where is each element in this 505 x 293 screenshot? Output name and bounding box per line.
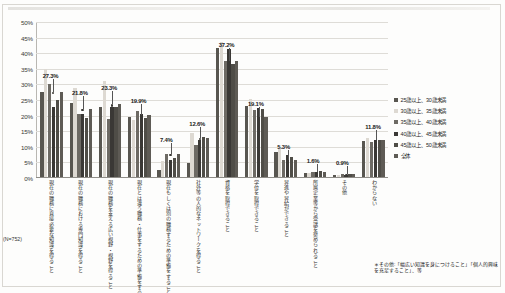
x-axis-label-text: 社外等の人的なネットワークを得ること bbox=[195, 180, 201, 262]
x-axis-label-text: 現在の職務を支える広い視野・視野を得ること bbox=[107, 180, 113, 262]
bar bbox=[70, 103, 73, 177]
x-axis bbox=[36, 177, 388, 178]
leader-line bbox=[288, 150, 289, 160]
bar bbox=[136, 111, 139, 177]
x-axis-label-text: 現在もしくは別の職務するための準備をすること bbox=[165, 180, 171, 262]
bar bbox=[73, 88, 76, 177]
bar bbox=[333, 175, 336, 177]
legend-item[interactable]: 45歳以上、50歳未満 bbox=[394, 141, 498, 149]
leader-dot bbox=[257, 117, 259, 119]
legend-item[interactable]: 35歳以上、40歳未満 bbox=[394, 118, 498, 126]
bar bbox=[114, 107, 117, 177]
bar bbox=[157, 170, 160, 177]
bar bbox=[290, 157, 293, 177]
legend-item[interactable]: 30歳以上、35歳未満 bbox=[394, 107, 498, 115]
bar bbox=[165, 154, 168, 177]
x-axis-label: 資格を取得できること bbox=[212, 180, 241, 262]
bar bbox=[245, 106, 248, 177]
y-axis-tick-label: 50% bbox=[21, 19, 33, 26]
bar bbox=[89, 109, 92, 177]
y-axis-tick-label: 15% bbox=[21, 128, 33, 135]
bar bbox=[381, 140, 384, 177]
bar bbox=[282, 160, 285, 177]
legend-swatch bbox=[394, 154, 398, 158]
bar-group bbox=[96, 22, 125, 177]
bar bbox=[366, 138, 369, 177]
legend-item[interactable]: 全体 bbox=[394, 152, 498, 160]
bar bbox=[161, 161, 164, 177]
bar bbox=[348, 174, 351, 177]
leader-line bbox=[112, 91, 113, 104]
bar bbox=[48, 84, 51, 177]
bar bbox=[227, 49, 230, 177]
y-axis-tick-label: 5% bbox=[24, 159, 33, 166]
leader-line bbox=[200, 127, 201, 138]
x-axis-label: その他 bbox=[329, 180, 358, 262]
bar bbox=[352, 174, 355, 177]
data-label: 11.8% bbox=[365, 124, 380, 130]
bar bbox=[370, 142, 373, 177]
bar bbox=[341, 174, 344, 177]
bar-groups bbox=[37, 22, 388, 177]
x-axis-label: 所属企業等から受講を奨められること bbox=[300, 180, 329, 262]
legend-label: 25歳以上、30歳未満 bbox=[401, 96, 447, 104]
bar bbox=[374, 140, 377, 177]
bar bbox=[311, 172, 314, 177]
x-axis-label-text: 現在の職務における専門知識を得ること bbox=[77, 180, 83, 262]
bar bbox=[261, 109, 264, 177]
bar bbox=[202, 137, 205, 177]
y-axis-tick-label: 30% bbox=[21, 81, 33, 88]
bar bbox=[128, 117, 131, 177]
legend-swatch bbox=[394, 132, 398, 136]
bar bbox=[140, 114, 143, 177]
bar bbox=[231, 64, 234, 177]
legend: 25歳以上、30歳未満30歳以上、35歳未満35歳以上、40歳未満40歳以上、4… bbox=[394, 96, 498, 163]
bar bbox=[60, 92, 63, 177]
bar bbox=[362, 141, 365, 177]
bar bbox=[85, 118, 88, 177]
legend-label: 45歳以上、50歳未満 bbox=[401, 141, 447, 149]
y-axis-tick-label: 25% bbox=[21, 97, 33, 104]
data-label: 19.1% bbox=[248, 101, 264, 107]
x-axis-label: 昇進や昇給ができること bbox=[271, 180, 300, 262]
chart-page: 50%45%40%35%30%25%20%15%10%5%0% 27.3%21.… bbox=[0, 0, 505, 293]
leader-line bbox=[347, 166, 348, 174]
bar bbox=[103, 81, 106, 177]
bar bbox=[224, 61, 227, 177]
legend-item[interactable]: 25歳以上、30歳未満 bbox=[394, 96, 498, 104]
data-label: 23.3% bbox=[101, 85, 117, 91]
bar-group bbox=[330, 22, 359, 177]
data-label: 21.8% bbox=[72, 90, 88, 96]
bar bbox=[235, 61, 238, 177]
y-axis-tick-label: 0% bbox=[24, 175, 33, 182]
x-axis-label-text: 現在の職務に直接必要な知識を得ること bbox=[48, 180, 54, 262]
bar bbox=[56, 100, 59, 177]
bar bbox=[198, 140, 201, 177]
bar bbox=[323, 172, 326, 177]
x-axis-label-text: 資格を取得できること bbox=[224, 180, 230, 262]
bar bbox=[253, 110, 256, 177]
x-axis-label: わからない bbox=[359, 180, 388, 262]
legend-swatch bbox=[394, 143, 398, 147]
bar bbox=[99, 107, 102, 178]
bar bbox=[173, 158, 176, 177]
legend-label: 30歳以上、35歳未満 bbox=[401, 107, 447, 115]
leader-dot bbox=[345, 174, 347, 176]
y-axis-tick-label: 35% bbox=[21, 65, 33, 72]
bar bbox=[307, 173, 310, 177]
bar bbox=[52, 107, 55, 178]
bar bbox=[378, 140, 381, 177]
bar-group bbox=[66, 22, 95, 177]
data-label: 19.9% bbox=[131, 98, 147, 104]
bar bbox=[190, 133, 193, 177]
x-axis-label: 現在とは違う職務・仕事をするための準備をすること bbox=[124, 180, 153, 262]
leader-dot bbox=[375, 140, 377, 142]
bar bbox=[118, 104, 121, 177]
legend-label: 35歳以上、40歳未満 bbox=[401, 118, 447, 126]
legend-swatch bbox=[394, 98, 398, 102]
x-axis-label: 現在の職務に直接必要な知識を得ること bbox=[36, 180, 65, 262]
bar bbox=[206, 138, 209, 177]
bar bbox=[132, 120, 135, 177]
bar bbox=[274, 152, 277, 177]
legend-item[interactable]: 40歳以上、45歳未満 bbox=[394, 130, 498, 138]
